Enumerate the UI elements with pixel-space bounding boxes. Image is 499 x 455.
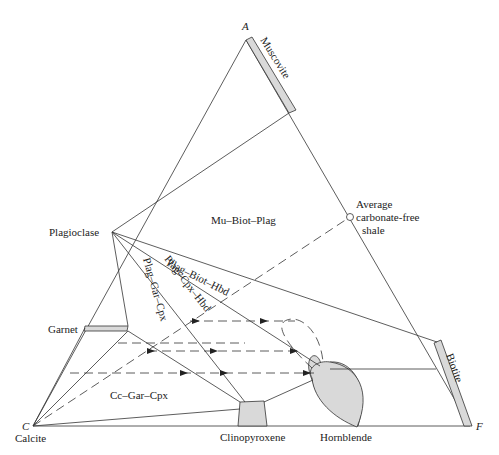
tie-cpx-hornblende xyxy=(264,380,313,402)
vertex-c-label: C xyxy=(22,420,30,432)
arrow-3a xyxy=(180,370,188,376)
tie-garnet-calcite xyxy=(33,331,128,426)
tie-plag-hornblende xyxy=(112,232,320,366)
hornblende-lens xyxy=(310,362,363,427)
arrow-1b xyxy=(260,318,268,324)
dashed-calcite-shale xyxy=(33,217,350,426)
acf-diagram: A C F Muscovite Biotite Plagioclase Garn… xyxy=(0,0,499,455)
calcite-label: Calcite xyxy=(15,432,46,444)
plagioclase-label: Plagioclase xyxy=(49,226,99,238)
clinopyroxene-phase xyxy=(238,401,267,426)
hornblende-label: Hornblende xyxy=(320,431,372,443)
tie-calcite-clinopyroxene xyxy=(33,409,240,426)
arrow-2b xyxy=(210,348,218,354)
tie-plag-clinopyroxene xyxy=(112,232,245,402)
tie-garnet-calcite-2 xyxy=(33,328,85,426)
arrow-2a xyxy=(147,348,155,354)
arrow-1a xyxy=(192,318,200,324)
acf-triangle-svg: A C F Muscovite Biotite Plagioclase Garn… xyxy=(0,0,499,455)
vertex-f-label: F xyxy=(475,420,483,432)
vertex-a-label: A xyxy=(241,20,249,32)
garnet-label: Garnet xyxy=(48,323,78,335)
assemblage-cc-gar-cpx: Cc–Gar–Cpx xyxy=(110,389,169,401)
clinopyroxene-label: Clinopyroxene xyxy=(220,431,285,443)
shale-composition-point xyxy=(347,214,354,221)
garnet-phase-bar xyxy=(84,326,128,331)
shale-label-line2: carbonate-free xyxy=(356,211,420,223)
shale-label-line3: shale xyxy=(362,224,385,236)
assemblage-mu-biot-plag: Mu–Biot–Plag xyxy=(211,214,276,226)
shale-label-line1: Average xyxy=(356,198,393,210)
